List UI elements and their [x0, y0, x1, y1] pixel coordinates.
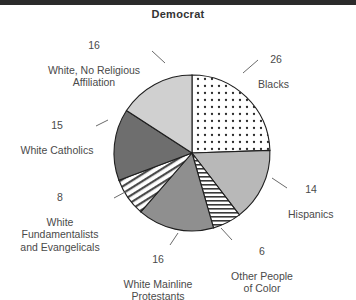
pie-label-text-other-people-of-color: Other People of Color — [231, 270, 293, 295]
pie-label-value-white-fundamentalists: 8 — [2, 191, 118, 204]
pie-label-value-white-no-religious-affiliation: 16 — [18, 39, 170, 52]
pie-chart-figure: Democrat — [0, 0, 356, 300]
pie-label-blacks: 26 Blacks — [258, 40, 338, 90]
pie-label-value-white-catholics: 15 — [2, 119, 112, 132]
pie-label-white-mainline-protestants: 16 White Mainline Protestants — [96, 240, 220, 300]
pie-label-text-white-mainline-protestants: White Mainline Protestants — [124, 278, 193, 300]
leader-line-hispanics — [272, 178, 287, 188]
pie-label-value-other-people-of-color: 6 — [212, 245, 312, 258]
pie-label-value-blacks: 26 — [258, 53, 294, 66]
pie-label-text-white-catholics: White Catholics — [21, 144, 94, 156]
pie-label-text-blacks: Blacks — [258, 78, 289, 90]
pie-label-text-white-no-religious-affiliation: White, No Religious Affiliation — [48, 64, 140, 89]
pie-label-text-hispanics: Hispanics — [288, 208, 334, 220]
pie-label-text-white-fundamentalists: White Fundamentalists and Evangelicals — [20, 216, 99, 253]
pie-label-value-hispanics: 14 — [288, 183, 334, 196]
pie-label-value-white-mainline-protestants: 16 — [96, 253, 220, 266]
pie-label-white-no-religious-affiliation: 16 White, No Religious Affiliation — [18, 26, 170, 89]
pie-label-white-catholics: 15 White Catholics — [2, 106, 112, 156]
leader-line-blacks — [243, 60, 258, 73]
pie-label-hispanics: 14 Hispanics — [288, 170, 354, 220]
pie-label-other-people-of-color: 6 Other People of Color — [212, 232, 312, 295]
